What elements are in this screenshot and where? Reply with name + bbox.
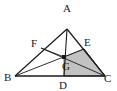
geometry-diagram: A B C D E F G: [0, 0, 117, 91]
segment-FG: [41, 48, 64, 57]
vertex-label-a: A: [63, 2, 71, 14]
vertex-label-c: C: [104, 72, 111, 84]
shaded-quadrilateral-gecd: [64, 49, 105, 76]
side-AB: [15, 29, 67, 76]
vertex-label-f: F: [31, 37, 37, 49]
vertex-label-g: G: [62, 60, 70, 72]
vertex-label-d: D: [59, 79, 67, 91]
vertex-label-b: B: [4, 71, 11, 83]
geometry-figure: A B C D E F G: [0, 0, 117, 91]
point-marker-g: [62, 55, 66, 59]
vertex-label-e: E: [84, 36, 91, 48]
